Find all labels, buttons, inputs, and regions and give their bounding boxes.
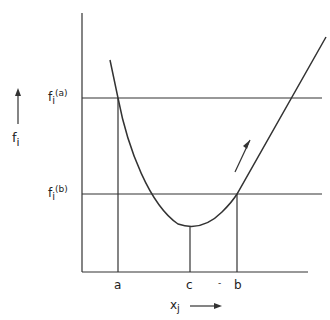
diagram: fi fi(a) fi(b) a c b - xj xyxy=(0,0,330,320)
x-arrowhead xyxy=(214,303,222,309)
tick-a: a xyxy=(114,278,121,292)
y-axis-label: fi xyxy=(12,130,20,149)
direction-arrowhead xyxy=(243,140,250,149)
stray-mark: - xyxy=(218,278,221,288)
level-b-label: fi(b) xyxy=(48,184,68,202)
tick-c: c xyxy=(186,278,193,292)
tick-b: b xyxy=(234,278,242,292)
function-curve xyxy=(110,37,326,226)
x-axis-label: xj xyxy=(170,298,180,314)
y-arrowhead xyxy=(15,88,21,96)
level-a-label: fi(a) xyxy=(48,88,68,106)
